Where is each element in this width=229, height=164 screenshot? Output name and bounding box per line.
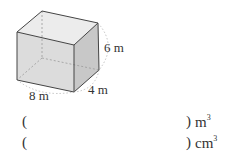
length-label: 8 m bbox=[29, 89, 49, 102]
close-paren: ) bbox=[186, 113, 191, 130]
unit-label: m3 bbox=[195, 113, 211, 131]
answer-row-m3: ( ) m3 bbox=[0, 113, 229, 131]
close-paren: ) bbox=[186, 134, 191, 151]
height-label: 6 m bbox=[104, 41, 124, 54]
answer-blank-m3[interactable] bbox=[34, 113, 182, 131]
answer-blank-cm3[interactable] bbox=[34, 134, 182, 152]
open-paren: ( bbox=[22, 113, 27, 130]
unit-label: cm3 bbox=[195, 134, 217, 152]
answer-row-cm3: ( ) cm3 bbox=[0, 134, 229, 152]
width-label: 4 m bbox=[88, 83, 108, 96]
open-paren: ( bbox=[22, 134, 27, 151]
